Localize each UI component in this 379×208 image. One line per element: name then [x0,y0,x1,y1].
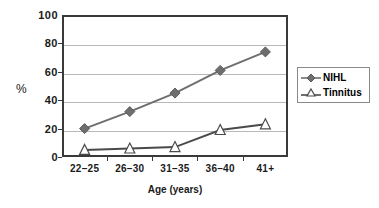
x-tick-mark-4 [243,157,244,161]
series-marker-nihl [80,124,90,134]
legend-item-tinnitus: Tinnitus [301,85,366,100]
legend-label-tinnitus: Tinnitus [323,87,362,98]
legend-marker-triangle-icon [301,87,321,99]
series-marker-nihl [215,65,225,75]
x-axis-title: Age (years) [62,184,288,195]
x-tick-label-26-30: 26–30 [107,163,153,174]
y-tick-mark-0 [58,157,62,158]
y-tick-label-60: 60 [30,67,58,78]
y-tick-label-0: 0 [30,152,58,163]
legend-item-nihl: NIHL [301,70,366,85]
y-axis-tick-labels: 100 80 60 40 20 0 [26,15,58,157]
x-tick-mark-3 [197,157,198,161]
line-chart-figure: 100 80 60 40 20 0 % 22–25 26–30 31– [0,0,379,208]
y-axis-title: % [16,82,27,96]
series-marker-nihl [125,107,135,117]
chart-legend: NIHL Tinnitus [297,67,370,103]
y-tick-label-20: 20 [30,124,58,135]
series-layer [62,15,288,157]
x-tick-label-31-35: 31–35 [152,163,198,174]
x-tick-label-41plus: 41+ [242,163,288,174]
x-tick-label-36-40: 36–40 [197,163,243,174]
series-marker-nihl [260,47,270,57]
series-marker-nihl [170,88,180,98]
x-tick-label-22-25: 22–25 [62,163,108,174]
y-tick-label-80: 80 [30,38,58,49]
legend-label-nihl: NIHL [323,72,346,83]
y-tick-label-40: 40 [30,95,58,106]
x-tick-mark-1 [107,157,108,161]
y-tick-label-100: 100 [30,10,58,21]
legend-marker-diamond-icon [301,72,321,84]
x-tick-mark-2 [152,157,153,161]
